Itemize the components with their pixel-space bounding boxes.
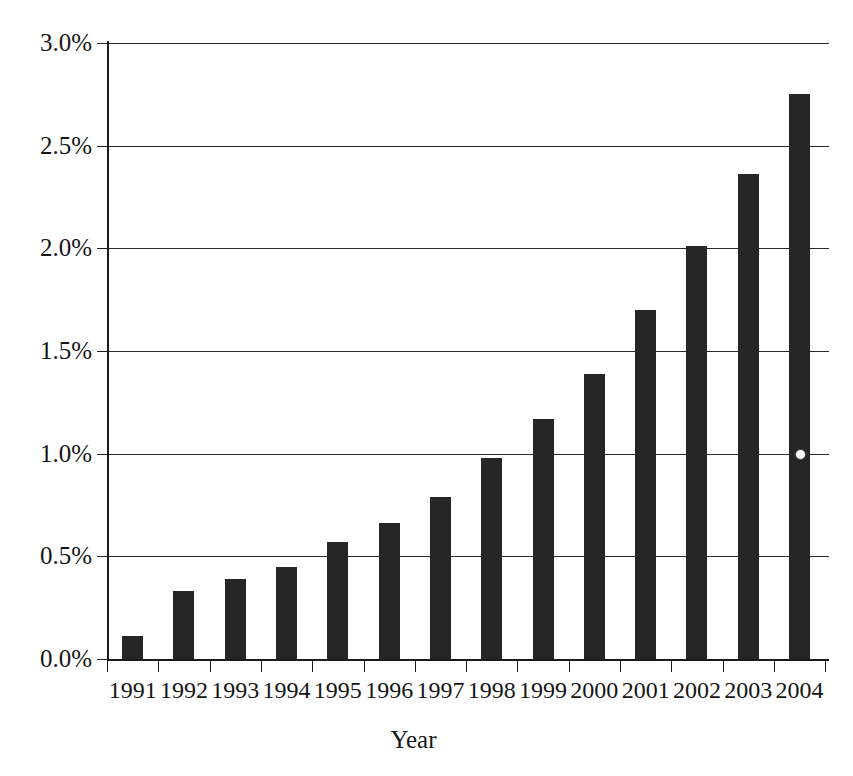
x-tick-1 [158,659,159,672]
gridline-0.5 [107,556,829,557]
gridline-3.0 [107,43,829,44]
y-tick-6 [97,43,107,44]
y-tick-0 [97,659,107,660]
y-tick-5 [97,146,107,147]
bar-1998 [481,458,502,659]
x-axis-title-text: Year [390,726,436,753]
bar-1993 [225,579,246,659]
gridline-1.0 [107,454,829,455]
y-axis-tick-label: 3.0% [0,30,92,55]
bar-1991 [122,636,143,659]
scan-artifact-speck [795,449,806,460]
bar-1992 [173,591,194,659]
y-axis-spine [107,41,109,661]
bar-1999 [533,419,554,659]
gridline-0.0 [107,659,829,661]
x-tick-13 [774,659,775,672]
y-tick-4 [97,248,107,249]
x-tick-7 [466,659,467,672]
x-axis-title: Year [0,726,853,754]
x-tick-10 [620,659,621,672]
x-tick-8 [517,659,518,672]
y-axis-tick-label: 2.0% [0,235,92,260]
x-tick-6 [415,659,416,672]
x-axis-tick-label: 2004 [770,676,830,704]
bar-1995 [327,542,348,659]
y-axis-tick-label: 0.5% [0,543,92,568]
gridline-2.5 [107,146,829,147]
x-tick-4 [312,659,313,672]
y-axis-tick-label: 1.0% [0,441,92,466]
bar-1997 [430,497,451,659]
y-axis-tick-label: 2.5% [0,133,92,158]
bar-1996 [379,523,400,659]
y-tick-1 [97,556,107,557]
x-tick-12 [723,659,724,672]
x-tick-11 [671,659,672,672]
gridline-1.5 [107,351,829,352]
bar-2001 [635,310,656,659]
x-tick-2 [210,659,211,672]
x-tick-0 [107,659,108,672]
y-tick-3 [97,351,107,352]
x-tick-9 [569,659,570,672]
bar-chart: 0.0%0.5%1.0%1.5%2.0%2.5%3.0% 19911992199… [0,0,853,776]
y-axis-tick-label: 0.0% [0,646,92,671]
bar-2000 [584,374,605,659]
x-tick-end [825,659,826,672]
bar-1994 [276,567,297,659]
y-tick-2 [97,454,107,455]
bar-2003 [738,174,759,659]
y-axis-tick-label: 1.5% [0,338,92,363]
gridline-2.0 [107,248,829,249]
x-tick-3 [261,659,262,672]
bar-2002 [686,246,707,659]
bar-2004 [789,94,810,659]
x-tick-5 [364,659,365,672]
plot-area [107,43,829,659]
